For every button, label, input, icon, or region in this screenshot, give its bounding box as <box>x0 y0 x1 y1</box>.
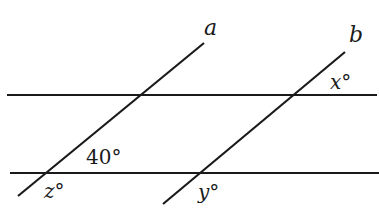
label-line-a: a <box>204 15 217 40</box>
label-angle-z: z° <box>43 179 65 203</box>
label-line-b: b <box>349 22 363 47</box>
parallel-lines-diagram: a b x° 40° z° y° <box>0 0 379 209</box>
label-angle-y: y° <box>197 180 219 204</box>
label-angle-40: 40° <box>86 145 121 169</box>
label-angle-x: x° <box>330 70 351 94</box>
transversal-b <box>163 52 345 204</box>
